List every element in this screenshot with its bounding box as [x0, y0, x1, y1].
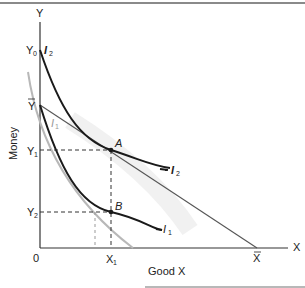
y0-sub: 0: [33, 50, 37, 57]
budget-line: [40, 105, 257, 248]
i1-right-dash: [156, 229, 162, 230]
i2-top-sub: 2: [49, 50, 53, 57]
y-axis-label: Y: [36, 7, 44, 19]
point-a-label: A: [114, 137, 122, 149]
i1-right-label: I: [163, 223, 166, 235]
y1-sub: 1: [34, 151, 38, 158]
origin-label: 0: [33, 252, 39, 264]
i2-right-dash: [160, 169, 168, 170]
indifference-diagram: Y X 0 Good X Money Y 0 I 2 Y I 1 Y 1 Y 2…: [0, 0, 305, 288]
ybar-label: Y: [28, 100, 36, 112]
y2-sub: 2: [34, 212, 38, 219]
i2-right-sub: 2: [176, 170, 180, 177]
point-b-label: B: [115, 200, 122, 212]
i1-right-sub: 1: [168, 229, 172, 236]
point-b: [109, 210, 114, 215]
x-title: Good X: [148, 265, 186, 277]
y-title: Money: [7, 126, 19, 160]
i1-faint-label: I: [51, 117, 54, 129]
x1-sub: 1: [113, 259, 117, 266]
i1-faint-sub: 1: [55, 123, 59, 130]
point-a: [109, 148, 114, 153]
x-axis-label: X: [293, 241, 301, 253]
xbar-label: X: [253, 252, 261, 264]
i2-top-label: I: [44, 44, 48, 56]
i2-right-label: I: [171, 164, 175, 176]
